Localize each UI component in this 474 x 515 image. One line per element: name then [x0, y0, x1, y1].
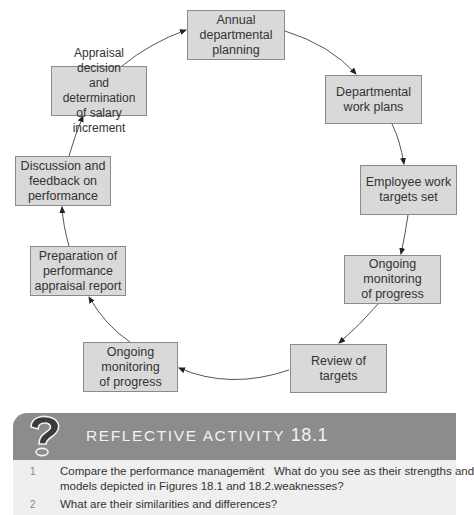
question-text: What do you see as their strengths and w… — [274, 464, 474, 494]
node-line: Ongoing monitoring — [85, 345, 176, 375]
node-line: work plans — [336, 100, 411, 115]
node-line: of progress — [346, 287, 439, 302]
node-line: Discussion and — [21, 159, 106, 174]
question-1: 1 Compare the performance management mod… — [30, 464, 230, 496]
node-discussion-and-feedback: Discussion andfeedback onperformance — [15, 156, 111, 206]
performance-management-cycle-diagram: Annualdepartmentalplanning Departmentalw… — [0, 0, 469, 410]
node-line: Review of — [311, 354, 366, 369]
node-line: Annual — [200, 13, 273, 28]
node-annual-departmental-planning: Annualdepartmentalplanning — [187, 10, 285, 60]
node-line: Departmental — [336, 85, 411, 100]
question-number: 3 — [248, 464, 254, 479]
activity-title: REFLECTIVE ACTIVITY 18.1 — [86, 425, 328, 446]
node-preparation-of-appraisal-report: Preparation ofperformanceappraisal repor… — [30, 246, 126, 296]
question-line: Compare the performance management — [60, 464, 274, 479]
activity-title-text: REFLECTIVE ACTIVITY — [86, 427, 285, 444]
question-line: What are their similarities and differen… — [60, 497, 277, 512]
node-line: feedback on — [21, 174, 106, 189]
node-line: Appraisal decision — [53, 46, 145, 76]
node-line: planning — [200, 43, 273, 58]
reflective-activity-questions: 1 Compare the performance management mod… — [13, 460, 456, 515]
node-line: and determination — [53, 76, 145, 106]
node-line: performance — [35, 264, 122, 279]
reflective-activity-banner: REFLECTIVE ACTIVITY 18.1 — [13, 413, 456, 460]
question-number: 1 — [30, 464, 36, 479]
node-line: appraisal report — [35, 279, 122, 294]
node-employee-work-targets-set: Employee worktargets set — [360, 165, 457, 215]
question-2: 2 What are their similarities and differ… — [30, 497, 270, 513]
question-3: 3 What do you see as their strengths and… — [248, 464, 458, 496]
question-line: weaknesses? — [274, 479, 474, 494]
node-line: Preparation of — [35, 249, 122, 264]
question-text: Compare the performance management model… — [60, 464, 274, 494]
node-line: targets set — [366, 190, 451, 205]
question-text: What are their similarities and differen… — [60, 497, 277, 512]
node-line: Employee work — [366, 175, 451, 190]
node-line: of progress — [85, 375, 176, 390]
question-mark-icon — [25, 415, 65, 459]
question-line: What do you see as their strengths and — [274, 464, 474, 479]
question-line: models depicted in Figures 18.1 and 18.2… — [60, 479, 274, 494]
node-line: targets — [311, 369, 366, 384]
node-line: Ongoing monitoring — [346, 257, 439, 287]
node-line: departmental — [200, 28, 273, 43]
node-ongoing-monitoring-left: Ongoing monitoringof progress — [83, 342, 178, 392]
activity-number: 18.1 — [291, 425, 328, 445]
node-appraisal-decision: Appraisal decisionand determinationof sa… — [51, 66, 147, 116]
node-line: performance — [21, 189, 106, 204]
question-number: 2 — [30, 497, 36, 512]
node-line: of salary increment — [53, 106, 145, 136]
node-review-of-targets: Review oftargets — [290, 344, 387, 393]
node-departmental-work-plans: Departmentalwork plans — [325, 75, 422, 124]
node-ongoing-monitoring-right: Ongoing monitoringof progress — [344, 255, 441, 304]
